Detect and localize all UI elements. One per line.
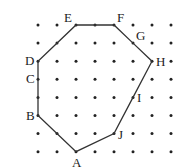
grid-dot bbox=[151, 42, 154, 45]
grid-dot bbox=[37, 24, 40, 27]
vertex-label-d: D bbox=[25, 53, 34, 68]
grid-dot bbox=[132, 114, 135, 117]
vertex-label-g: G bbox=[136, 28, 145, 43]
grid-dot bbox=[170, 78, 173, 81]
grid-dot bbox=[170, 132, 173, 135]
grid-dot bbox=[132, 24, 135, 27]
grid-dot bbox=[56, 24, 59, 27]
grid-dot bbox=[151, 114, 154, 117]
grid-dot bbox=[94, 60, 97, 63]
grid-dot bbox=[75, 96, 78, 99]
grid-dot bbox=[113, 114, 116, 117]
grid-dot bbox=[170, 114, 173, 117]
vertex-label-b: B bbox=[26, 108, 35, 123]
grid-dot bbox=[56, 78, 59, 81]
grid-dot bbox=[94, 132, 97, 135]
grid-dot bbox=[94, 78, 97, 81]
vertex-label-j: J bbox=[118, 127, 123, 142]
grid-dot bbox=[170, 96, 173, 99]
grid-dot bbox=[170, 150, 173, 153]
grid-dot bbox=[132, 150, 135, 153]
grid-dot bbox=[94, 150, 97, 153]
grid-dot bbox=[151, 132, 154, 135]
grid-dot bbox=[75, 42, 78, 45]
grid-dot bbox=[151, 24, 154, 27]
grid-dot bbox=[113, 42, 116, 45]
vertex-label-c: C bbox=[26, 71, 35, 86]
grid-dot bbox=[94, 114, 97, 117]
grid-dot bbox=[170, 42, 173, 45]
grid-dot bbox=[170, 24, 173, 27]
grid-dot bbox=[151, 78, 154, 81]
grid-dot bbox=[56, 114, 59, 117]
grid-dot bbox=[132, 132, 135, 135]
grid-dot bbox=[94, 96, 97, 99]
grid-dot bbox=[94, 42, 97, 45]
grid-dot bbox=[37, 42, 40, 45]
grid-dot bbox=[151, 150, 154, 153]
grid-dot bbox=[75, 78, 78, 81]
grid-dot bbox=[170, 60, 173, 63]
grid-dot bbox=[75, 132, 78, 135]
grid-dot bbox=[75, 60, 78, 63]
grid-dot bbox=[113, 78, 116, 81]
grid-dot bbox=[37, 132, 40, 135]
grid-dot bbox=[132, 60, 135, 63]
grid-dot bbox=[113, 150, 116, 153]
vertex-label-e: E bbox=[64, 10, 72, 25]
grid-dot bbox=[75, 114, 78, 117]
grid-dot bbox=[132, 78, 135, 81]
vertex-label-a: A bbox=[72, 155, 82, 168]
grid-dot bbox=[56, 60, 59, 63]
grid-dot bbox=[151, 96, 154, 99]
grid-dot bbox=[113, 60, 116, 63]
vertex-label-h: H bbox=[156, 54, 165, 69]
grid-dot bbox=[56, 96, 59, 99]
grid-dot bbox=[113, 96, 116, 99]
vertex-labels: EFGHIJABCD bbox=[25, 10, 165, 168]
vertex-label-f: F bbox=[117, 10, 124, 25]
lattice-diagram: EFGHIJABCD bbox=[0, 0, 183, 168]
grid-dot bbox=[37, 150, 40, 153]
grid-dot bbox=[56, 150, 59, 153]
vertex-label-i: I bbox=[137, 90, 141, 105]
